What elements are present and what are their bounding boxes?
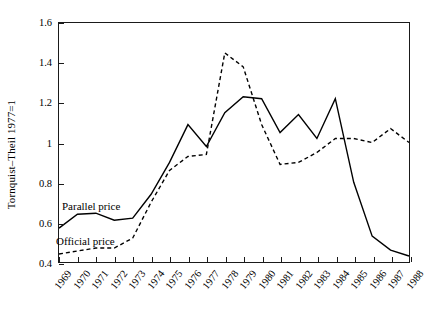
chart-lines	[59, 23, 409, 262]
x-tick-mark	[189, 257, 190, 262]
series-line-official-price	[59, 53, 409, 254]
x-tick-label: 1972	[108, 268, 130, 291]
y-tick-mark	[59, 103, 64, 104]
chart-figure: Tornquist–Theil 1977=1 0.40.60.811.21.41…	[0, 0, 428, 309]
y-tick-mark	[59, 264, 64, 265]
x-tick-label: 1979	[237, 268, 259, 291]
y-tick-label: 1.2	[8, 97, 52, 108]
y-tick-label: 1.6	[8, 17, 52, 28]
x-tick-label: 1980	[256, 268, 278, 291]
x-tick-mark	[96, 257, 97, 262]
x-tick-mark	[244, 257, 245, 262]
series-line-parallel-price	[59, 97, 409, 256]
x-tick-mark	[78, 257, 79, 262]
x-tick-mark	[170, 257, 171, 262]
x-tick-label: 1975	[163, 268, 185, 291]
y-tick-label: 0.8	[8, 177, 52, 188]
x-tick-label: 1977	[200, 268, 222, 291]
x-tick-label: 1978	[219, 268, 241, 291]
x-tick-mark	[337, 257, 338, 262]
x-tick-mark	[355, 257, 356, 262]
y-tick-mark	[59, 23, 64, 24]
annotation-official-price: Official price	[56, 235, 115, 247]
x-tick-label: 1984	[330, 268, 352, 291]
x-tick-mark	[281, 257, 282, 262]
x-tick-label: 1987	[386, 268, 408, 291]
y-tick-mark	[59, 224, 64, 225]
x-tick-mark	[207, 257, 208, 262]
x-tick-mark	[133, 257, 134, 262]
x-tick-mark	[318, 257, 319, 262]
x-tick-mark	[152, 257, 153, 262]
x-tick-label: 1976	[182, 268, 204, 291]
x-tick-label: 1985	[348, 268, 370, 291]
y-tick-mark	[59, 144, 64, 145]
x-tick-mark	[226, 257, 227, 262]
x-tick-label: 1969	[52, 268, 74, 291]
y-tick-label: 0.6	[8, 217, 52, 228]
x-tick-label: 1982	[293, 268, 315, 291]
y-tick-mark	[59, 63, 64, 64]
annotation-parallel-price: Parallel price	[62, 200, 120, 212]
x-tick-mark	[392, 257, 393, 262]
x-tick-mark	[300, 257, 301, 262]
x-tick-label: 1983	[311, 268, 333, 291]
x-tick-label: 1970	[71, 268, 93, 291]
x-tick-label: 1981	[274, 268, 296, 291]
x-tick-mark	[263, 257, 264, 262]
x-tick-mark	[374, 257, 375, 262]
x-tick-label: 1986	[367, 268, 389, 291]
plot-area	[58, 22, 410, 263]
y-tick-label: 1.4	[8, 57, 52, 68]
x-tick-label: 1974	[145, 268, 167, 291]
x-tick-mark	[411, 257, 412, 262]
x-tick-mark	[115, 257, 116, 262]
y-tick-mark	[59, 184, 64, 185]
x-tick-label: 1971	[89, 268, 111, 291]
x-tick-mark	[59, 257, 60, 262]
x-tick-label: 1973	[126, 268, 148, 291]
x-tick-label: 1988	[404, 268, 426, 291]
y-tick-label: 0.4	[8, 258, 52, 269]
y-tick-label: 1	[8, 137, 52, 148]
